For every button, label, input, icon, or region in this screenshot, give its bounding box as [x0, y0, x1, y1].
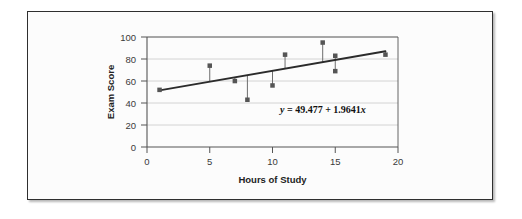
x-tick-label-10: 10	[267, 156, 278, 167]
x-tick-label-0: 0	[144, 156, 149, 167]
data-point	[233, 79, 238, 84]
x-axis-tick-labels: 0 5 10 15 20	[144, 156, 403, 167]
y-axis-ticks	[141, 37, 147, 147]
y-tick-label-100: 100	[120, 32, 136, 43]
data-point	[320, 40, 325, 45]
y-tick-label-40: 40	[125, 98, 136, 109]
data-point	[283, 52, 288, 57]
plot-frame	[147, 37, 398, 147]
data-point	[245, 98, 250, 103]
x-tick-label-5: 5	[207, 156, 212, 167]
data-point	[333, 69, 338, 74]
y-axis-title: Exam Score	[105, 65, 116, 119]
data-point	[333, 54, 338, 59]
axis-spines	[147, 37, 398, 147]
figure-panel: 100 80 60 40 20 0 0 5 10 15 20	[27, 11, 493, 200]
y-tick-label-0: 0	[131, 142, 136, 153]
y-tick-label-20: 20	[125, 120, 136, 131]
x-tick-label-15: 15	[330, 156, 341, 167]
regression-scatter-chart: 100 80 60 40 20 0 0 5 10 15 20	[28, 12, 494, 201]
y-axis-tick-labels: 100 80 60 40 20 0	[120, 32, 136, 153]
y-tick-label-60: 60	[125, 76, 136, 87]
data-point	[383, 52, 388, 57]
regression-equation-x: x	[360, 104, 366, 115]
x-axis-title: Hours of Study	[238, 174, 307, 185]
data-point	[157, 88, 162, 93]
y-tick-label-80: 80	[125, 54, 136, 65]
x-tick-label-20: 20	[393, 156, 404, 167]
data-point	[270, 83, 275, 88]
regression-equation-label: y = 49.477 + 1.9641x	[279, 104, 366, 115]
regression-equation-body: = 49.477 + 1.9641	[284, 104, 360, 115]
figure-root: 100 80 60 40 20 0 0 5 10 15 20	[0, 0, 522, 219]
x-axis-ticks	[147, 147, 398, 153]
data-point	[208, 63, 213, 68]
